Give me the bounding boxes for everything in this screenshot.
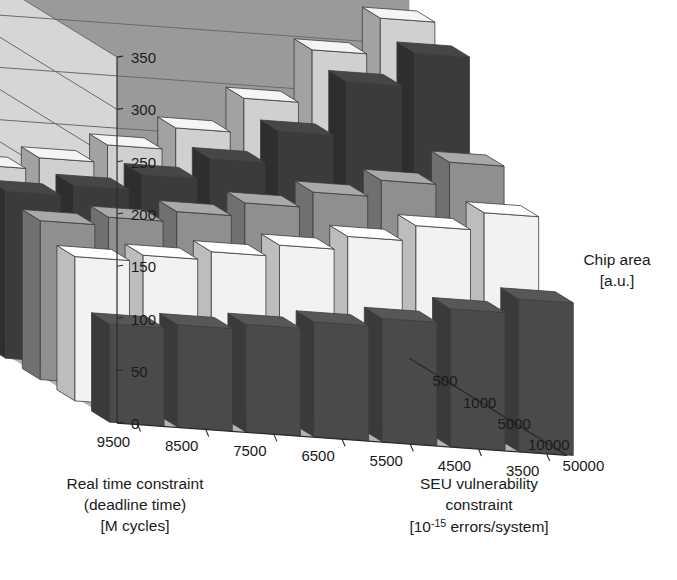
bar-x7500-y50000 — [228, 313, 301, 436]
y-axis-unit-tail: errors/system] — [446, 518, 548, 535]
x-tick-3500 — [547, 454, 550, 461]
bar-x5500-y50000 — [364, 307, 437, 445]
z-tick-label-350: 350 — [131, 49, 156, 66]
bar-x6500-y50000 — [296, 311, 369, 441]
bar-front-face — [178, 325, 233, 431]
bar-x9500-y50000 — [92, 313, 165, 426]
z-tick-label-300: 300 — [131, 101, 156, 118]
y-tick-label-5000: 5000 — [498, 415, 531, 432]
y-tick-label-1000: 1000 — [463, 394, 496, 411]
z-tick-label-150: 150 — [131, 258, 156, 275]
x-tick-5500 — [410, 444, 413, 451]
x-axis-title-line2: (deadline time) — [84, 496, 187, 513]
z-tick-label-50: 50 — [131, 363, 148, 380]
z-tick-label-0: 0 — [131, 415, 139, 432]
z-tick-label-250: 250 — [131, 154, 156, 171]
x-tick-label-6500: 6500 — [301, 447, 334, 464]
chart-3d-bar: 3500450055006500750085009500500001000050… — [0, 0, 677, 580]
x-tick-label-8500: 8500 — [165, 437, 198, 454]
y-axis-title-line3: [10-15 errors/system] — [409, 517, 548, 535]
y-tick-label-10000: 10000 — [528, 436, 570, 453]
x-tick-7500 — [274, 434, 277, 441]
x-axis-title-line1: Real time constraint — [67, 475, 205, 492]
bar-side-face — [92, 313, 110, 422]
bar-side-face — [22, 210, 40, 380]
z-axis-title-line2: [a.u.] — [600, 272, 634, 289]
x-axis-title-line3: [M cycles] — [101, 517, 170, 534]
y-axis-title-line1: SEU vulnerability — [420, 475, 538, 492]
y-axis-title-line2: constraint — [445, 496, 513, 513]
bar-front-face — [382, 318, 437, 445]
y-axis-unit-exponent: -15 — [431, 517, 446, 529]
y-axis-unit-base: [10 — [409, 518, 431, 535]
z-tick-label-200: 200 — [131, 206, 156, 223]
x-tick-label-7500: 7500 — [233, 442, 266, 459]
x-tick-4500 — [478, 449, 481, 456]
bar-x8500-y50000 — [160, 314, 233, 431]
x-tick-8500 — [206, 429, 209, 436]
bar-front-face — [246, 324, 301, 436]
bar-side-face — [0, 180, 6, 358]
z-axis-title-line1: Chip area — [583, 251, 651, 268]
x-tick-6500 — [342, 439, 345, 446]
z-tick-label-100: 100 — [131, 311, 156, 328]
bar-front-face — [519, 299, 574, 456]
bar-front-face — [314, 322, 369, 441]
chart-canvas: 3500450055006500750085009500500001000050… — [0, 0, 677, 580]
x-tick-label-9500: 9500 — [97, 433, 130, 450]
y-tick-label-50000: 50000 — [563, 457, 605, 474]
bar-side-face — [57, 245, 75, 400]
y-tick-label-500: 500 — [433, 372, 458, 389]
x-tick-label-4500: 4500 — [438, 457, 471, 474]
x-tick-label-5500: 5500 — [370, 452, 403, 469]
